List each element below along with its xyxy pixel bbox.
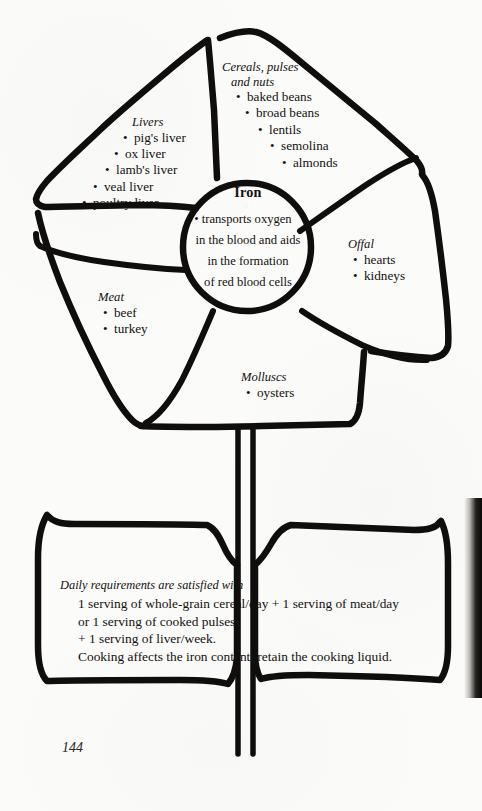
- center-text-iron: Iron •transports oxygen in the blood and…: [185, 184, 311, 293]
- list-item: •poultry liver: [82, 195, 186, 211]
- bullet-icon: •: [258, 122, 269, 138]
- bullet-icon: •: [114, 146, 125, 162]
- bullet-icon: •: [270, 138, 281, 154]
- item-label: hearts: [364, 252, 396, 267]
- petal-divider-livers-meat: [36, 234, 186, 270]
- list-item: •semolina: [270, 138, 338, 154]
- list-item: •ox liver: [114, 146, 186, 162]
- requirement-line: 1 serving of whole-grain cereal/day + 1 …: [78, 595, 460, 613]
- petal-title-livers: Livers: [132, 115, 186, 130]
- list-item: •kidneys: [353, 268, 405, 284]
- item-label: baked beans: [247, 89, 312, 104]
- center-description: •transports oxygen in the blood and aids…: [185, 209, 311, 293]
- requirement-line: or 1 serving of cooked pulses: [78, 613, 460, 631]
- petal-items-livers: •pig's liver •ox liver •lamb's liver •ve…: [110, 130, 186, 212]
- item-label: beef: [114, 305, 137, 320]
- petal-edge-livers-inner: [208, 40, 217, 178]
- bullet-icon: •: [246, 385, 257, 401]
- bullet-icon: •: [103, 305, 114, 321]
- center-line: in the formation: [185, 251, 311, 272]
- list-item: •turkey: [103, 321, 148, 337]
- list-item: •baked beans: [236, 89, 338, 105]
- center-line: in the blood and aids: [185, 230, 311, 251]
- bullet-icon: •: [194, 212, 198, 226]
- list-item: •veal liver: [93, 179, 186, 195]
- bullet-icon: •: [245, 105, 256, 121]
- bullet-icon: •: [282, 155, 293, 171]
- petal-items-cereals: •baked beans •broad beans •lentils •semo…: [222, 89, 338, 171]
- item-label: lentils: [269, 122, 301, 137]
- petal-items-molluscs: •oysters: [241, 385, 294, 401]
- list-item: •almonds: [282, 155, 338, 171]
- petal-title-cereals-line2: and nuts: [231, 75, 338, 90]
- daily-requirements-panel: Daily requirements are satisfied with 1 …: [60, 578, 460, 665]
- item-label: lamb's liver: [116, 162, 177, 177]
- center-title: Iron: [185, 184, 311, 201]
- bullet-icon: •: [353, 268, 364, 284]
- petal-text-meat: Meat •beef •turkey: [98, 290, 148, 337]
- daily-requirements-heading: Daily requirements are satisfied with: [60, 578, 460, 593]
- bullet-icon: •: [105, 162, 116, 178]
- center-line: •transports oxygen: [185, 209, 311, 230]
- center-line: of red blood cells: [185, 272, 311, 293]
- list-item: •lentils: [258, 122, 338, 138]
- list-item: •pig's liver: [123, 130, 186, 146]
- list-item: •oysters: [246, 385, 294, 401]
- book-page: Livers •pig's liver •ox liver •lamb's li…: [0, 0, 482, 811]
- bullet-icon: •: [236, 89, 247, 105]
- daily-requirements-lines: 1 serving of whole-grain cereal/day + 1 …: [78, 595, 460, 665]
- petal-text-offal: Offal •hearts •kidneys: [348, 237, 405, 284]
- page-number: 144: [62, 740, 83, 756]
- bullet-icon: •: [93, 179, 104, 195]
- petal-divider-meat-molluscs: [146, 311, 213, 423]
- item-label: turkey: [114, 321, 148, 336]
- bullet-icon: •: [82, 195, 93, 211]
- item-label: almonds: [293, 155, 338, 170]
- item-label: veal liver: [104, 179, 153, 194]
- petal-title-molluscs: Molluscs: [241, 370, 294, 385]
- petal-text-livers: Livers •pig's liver •ox liver •lamb's li…: [110, 115, 186, 212]
- list-item: •hearts: [353, 252, 405, 268]
- petal-text-cereals: Cereals, pulses and nuts •baked beans •b…: [222, 60, 338, 171]
- item-label: oysters: [257, 385, 294, 400]
- petal-title-meat: Meat: [98, 290, 148, 305]
- list-item: •lamb's liver: [105, 162, 186, 178]
- item-label: semolina: [281, 138, 329, 153]
- bullet-icon: •: [103, 321, 114, 337]
- list-item: •broad beans: [245, 105, 338, 121]
- center-line-label: transports oxygen: [202, 212, 292, 226]
- requirement-line: + 1 serving of liver/week.: [78, 630, 460, 648]
- petal-items-meat: •beef •turkey: [98, 305, 148, 338]
- item-label: pig's liver: [134, 130, 186, 145]
- requirement-line: Cooking affects the iron content: retain…: [78, 648, 460, 666]
- item-label: ox liver: [125, 146, 166, 161]
- bullet-icon: •: [123, 130, 134, 146]
- petal-title-offal: Offal: [348, 237, 405, 252]
- item-label: kidneys: [364, 268, 405, 283]
- item-label: broad beans: [256, 105, 319, 120]
- petal-text-molluscs: Molluscs •oysters: [241, 370, 294, 401]
- petal-items-offal: •hearts •kidneys: [348, 252, 405, 285]
- list-item: •beef: [103, 305, 148, 321]
- item-label: poultry liver: [93, 195, 159, 210]
- bullet-icon: •: [353, 252, 364, 268]
- petal-title-cereals-line1: Cereals, pulses: [222, 60, 338, 75]
